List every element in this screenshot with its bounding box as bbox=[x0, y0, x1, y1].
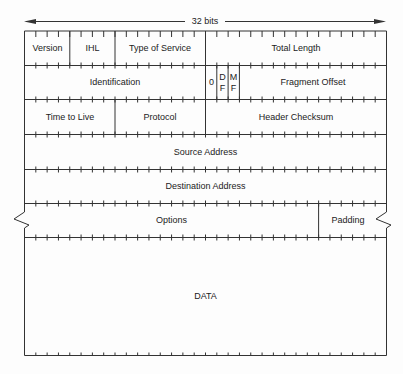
mf-bottom: F bbox=[231, 83, 237, 94]
field-version: Version bbox=[25, 31, 70, 65]
df-top: D bbox=[219, 72, 226, 83]
field-destination-address: Destination Address bbox=[25, 170, 386, 203]
arrow-left-icon bbox=[24, 19, 36, 24]
field-total-length: Total Length bbox=[206, 31, 386, 65]
field-mf: M F bbox=[228, 66, 239, 99]
df-bottom: F bbox=[220, 83, 226, 94]
field-type-of-service: Type of Service bbox=[115, 31, 205, 65]
field-ihl: IHL bbox=[70, 31, 115, 65]
field-time-to-live: Time to Live bbox=[25, 100, 115, 134]
field-protocol: Protocol bbox=[115, 100, 205, 134]
field-data: DATA bbox=[25, 238, 386, 355]
width-label: 32 bits bbox=[185, 15, 225, 28]
field-fragment-offset: Fragment Offset bbox=[240, 66, 386, 99]
arrow-right-icon bbox=[374, 19, 386, 24]
field-options: Options bbox=[25, 204, 318, 237]
field-padding: Padding bbox=[319, 204, 377, 237]
field-header-checksum: Header Checksum bbox=[206, 100, 386, 134]
field-identification: Identification bbox=[25, 66, 205, 99]
field-source-address: Source Address bbox=[25, 135, 386, 169]
mf-top: M bbox=[230, 72, 238, 83]
field-df: D F bbox=[217, 66, 228, 99]
field-reserved-zero: 0 bbox=[206, 66, 217, 99]
